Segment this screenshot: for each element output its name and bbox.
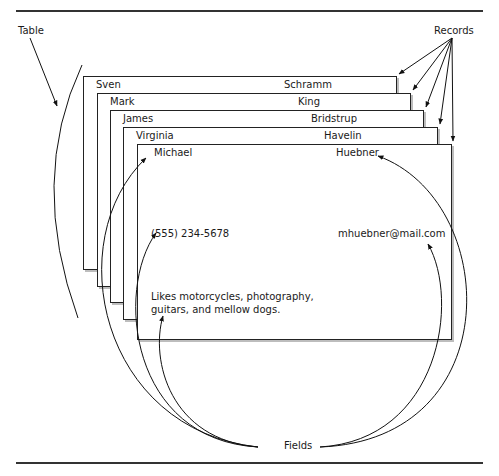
connector-arrows — [0, 0, 499, 476]
table-arrow — [30, 38, 57, 106]
table-bracket-arc — [54, 65, 82, 318]
records-arrow-james — [426, 38, 452, 107]
records-arrow-michael — [452, 38, 453, 141]
fields-arrow-phone — [136, 233, 258, 447]
fields-arrow-last-name — [320, 156, 467, 447]
records-arrow-sven — [399, 38, 452, 74]
fields-arrow-first-name — [102, 158, 258, 447]
fields-arrow-notes — [159, 316, 258, 447]
fields-arrow-email — [320, 244, 442, 447]
